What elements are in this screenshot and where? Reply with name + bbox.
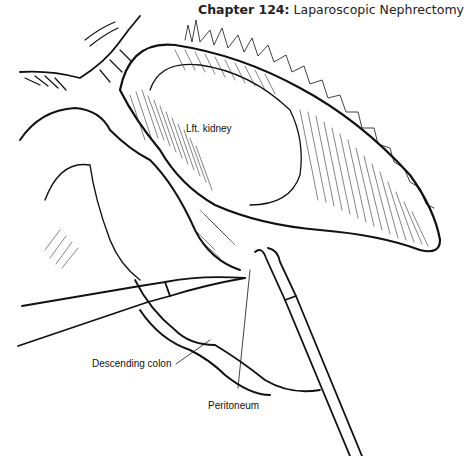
label-peritoneum: Peritoneum [208, 400, 259, 411]
peritoneum-leader [238, 270, 250, 388]
colon-leader [176, 340, 210, 364]
surgical-illustration [0, 0, 466, 456]
label-leaders [176, 270, 250, 388]
label-left-kidney: Lft. kidney [186, 123, 232, 134]
left-grasper [18, 277, 245, 346]
perirenal-fat [185, 20, 434, 208]
label-descending-colon: Descending colon [92, 358, 172, 369]
colon-hatching [45, 210, 235, 268]
right-dissector [255, 248, 362, 456]
kidney [120, 45, 440, 252]
